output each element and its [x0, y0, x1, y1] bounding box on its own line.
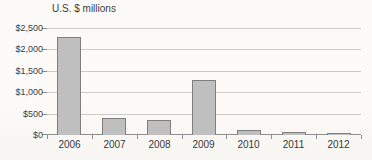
bar-chart: U.S. $ millions $0$500$1,000$1,500$2,000…	[0, 0, 372, 160]
x-axis-label-2011: 2011	[271, 139, 316, 151]
bar-2011	[282, 132, 306, 135]
x-axis-label-2007: 2007	[92, 139, 137, 151]
y-axis-tick-label: $2,000	[0, 44, 43, 54]
bar-2010	[237, 130, 261, 135]
gridline	[47, 71, 361, 72]
bar-2006	[57, 37, 81, 135]
plot-area	[47, 28, 361, 135]
y-axis-tick-label: $1,500	[0, 66, 43, 76]
x-axis-label-2008: 2008	[137, 139, 182, 151]
bar-2012	[327, 133, 351, 135]
y-axis-tick-label: $0	[0, 130, 43, 140]
y-axis-tick-label: $1,000	[0, 87, 43, 97]
chart-title: U.S. $ millions	[52, 3, 116, 15]
bar-2009	[192, 80, 216, 135]
gridline	[47, 28, 361, 29]
y-axis-tick-label: $500	[0, 109, 43, 119]
x-axis-label-2006: 2006	[47, 139, 92, 151]
bar-2007	[102, 118, 126, 135]
x-axis-label-2009: 2009	[181, 139, 226, 151]
bar-2008	[147, 120, 171, 135]
x-axis-tick	[361, 135, 362, 139]
gridline	[47, 49, 361, 50]
y-axis-tick-label: $2,500	[0, 23, 43, 33]
x-axis-label-2010: 2010	[226, 139, 271, 151]
x-axis-label-2012: 2012	[316, 139, 361, 151]
